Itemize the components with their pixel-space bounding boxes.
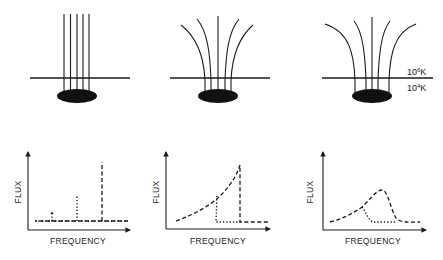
temperature-label-upper: 106K: [407, 67, 426, 78]
temperature-label-lower: 104K: [407, 83, 426, 94]
field-panel-strong: 106K 104K: [322, 17, 433, 103]
continuum-curve-dotted: [216, 196, 240, 222]
flux-axis-label: FLUX: [151, 181, 161, 204]
flux-axis-label: FLUX: [305, 181, 315, 204]
continuum-curve-dashed: [330, 190, 420, 222]
frequency-axis-label: FREQUENCY: [50, 236, 106, 246]
spectrum-panel-1: FLUX FREQUENCY: [13, 152, 130, 246]
spectrum-panel-2: FLUX FREQUENCY: [151, 152, 270, 246]
frequency-axis-label: FREQUENCY: [345, 236, 401, 246]
spectrum-panel-3: FLUX FREQUENCY: [305, 152, 426, 246]
continuum-curve-dotted: [362, 207, 396, 222]
sunspot-ellipse: [198, 89, 238, 103]
sunspot-ellipse: [352, 89, 392, 103]
field-panel-uniform: [30, 14, 130, 103]
frequency-axis-label: FREQUENCY: [190, 236, 246, 246]
sunspot-ellipse: [57, 89, 97, 103]
field-panel-moderate: [170, 16, 270, 103]
figure-diagram: 106K 104K FLUX FREQUENCY FLUX FREQUENCY: [0, 0, 443, 260]
flux-axis-label: FLUX: [13, 181, 23, 204]
continuum-curve-dashed: [176, 165, 268, 222]
